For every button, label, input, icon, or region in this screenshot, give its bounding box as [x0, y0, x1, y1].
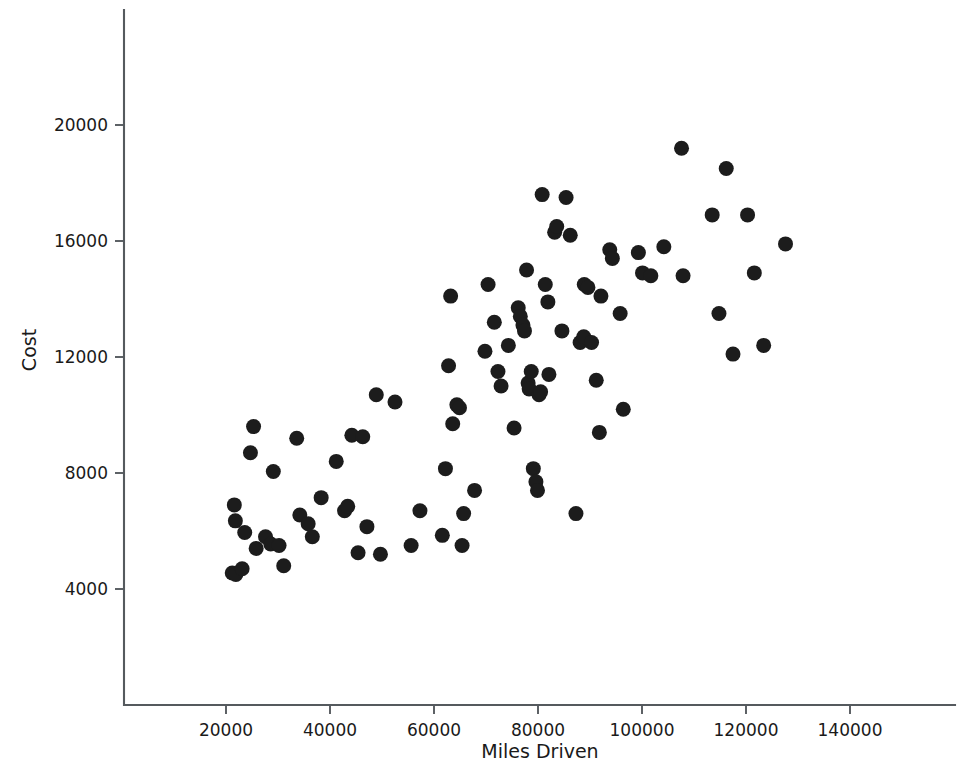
y-tick-label: 12000 — [54, 347, 108, 367]
data-point — [227, 497, 242, 512]
x-tick-label: 120000 — [714, 720, 779, 740]
data-point — [443, 289, 458, 304]
data-point — [487, 315, 502, 330]
data-point — [490, 364, 505, 379]
data-point — [517, 323, 532, 338]
data-point — [249, 541, 264, 556]
data-point — [747, 265, 762, 280]
data-point — [412, 503, 427, 518]
data-point — [568, 506, 583, 521]
data-point — [507, 421, 522, 436]
data-point — [455, 538, 470, 553]
data-point — [314, 490, 329, 505]
x-tick-label: 100000 — [610, 720, 675, 740]
data-point — [373, 547, 388, 562]
data-point — [526, 461, 541, 476]
data-point — [589, 373, 604, 388]
data-point — [477, 344, 492, 359]
x-axis-ticks — [226, 705, 850, 714]
x-tick-label: 20000 — [199, 720, 253, 740]
x-tick-label: 140000 — [818, 720, 883, 740]
data-point — [301, 516, 316, 531]
data-point — [616, 402, 631, 417]
scatter-plot-figure: 40008000120001600020000 2000040000600008… — [0, 0, 976, 784]
data-point — [359, 519, 374, 534]
data-point — [235, 561, 250, 576]
data-point — [519, 263, 534, 278]
data-point — [541, 367, 556, 382]
data-point-series — [225, 141, 793, 582]
data-point — [535, 187, 550, 202]
data-point — [494, 379, 509, 394]
data-point — [593, 289, 608, 304]
data-point — [435, 528, 450, 543]
data-point — [676, 268, 691, 283]
data-point — [705, 207, 720, 222]
data-point — [711, 306, 726, 321]
data-point — [554, 323, 569, 338]
data-point — [501, 338, 516, 353]
data-point — [719, 161, 734, 176]
data-point — [266, 464, 281, 479]
data-point — [580, 280, 595, 295]
x-axis-tick-labels: 20000400006000080000100000120000140000 — [199, 720, 883, 740]
data-point — [674, 141, 689, 156]
data-point — [456, 506, 471, 521]
x-axis-title: Miles Driven — [481, 740, 598, 762]
y-axis-title: Cost — [18, 329, 40, 371]
data-point — [329, 454, 344, 469]
data-point — [778, 236, 793, 251]
y-tick-label: 8000 — [65, 463, 108, 483]
plot-canvas: 40008000120001600020000 2000040000600008… — [0, 0, 976, 784]
data-point — [533, 384, 548, 399]
data-point — [530, 483, 545, 498]
data-point — [643, 268, 658, 283]
data-point — [351, 545, 366, 560]
data-point — [272, 538, 287, 553]
x-tick-label: 40000 — [303, 720, 357, 740]
data-point — [605, 251, 620, 266]
data-point — [305, 529, 320, 544]
data-point — [228, 513, 243, 528]
data-point — [467, 483, 482, 498]
data-point — [404, 538, 419, 553]
data-point — [246, 419, 261, 434]
data-point — [243, 445, 258, 460]
data-point — [726, 347, 741, 362]
data-point — [355, 429, 370, 444]
y-tick-label: 16000 — [54, 231, 108, 251]
data-point — [584, 335, 599, 350]
data-point — [441, 358, 456, 373]
data-point — [438, 461, 453, 476]
x-tick-label: 60000 — [407, 720, 461, 740]
data-point — [540, 294, 555, 309]
data-point — [388, 394, 403, 409]
y-axis-tick-labels: 40008000120001600020000 — [54, 115, 108, 599]
data-point — [756, 338, 771, 353]
data-point — [237, 525, 252, 540]
data-point — [340, 499, 355, 514]
y-tick-label: 20000 — [54, 115, 108, 135]
axis-spines — [124, 10, 955, 705]
data-point — [631, 245, 646, 260]
data-point — [452, 400, 467, 415]
data-point — [289, 431, 304, 446]
y-axis-ticks — [115, 125, 124, 589]
data-point — [538, 277, 553, 292]
data-point — [656, 239, 671, 254]
x-tick-label: 80000 — [511, 720, 565, 740]
data-point — [369, 387, 384, 402]
data-point — [276, 558, 291, 573]
data-point — [563, 228, 578, 243]
data-point — [740, 207, 755, 222]
data-point — [549, 219, 564, 234]
data-point — [559, 190, 574, 205]
data-point — [524, 364, 539, 379]
y-tick-label: 4000 — [65, 579, 108, 599]
data-point — [592, 425, 607, 440]
data-point — [445, 416, 460, 431]
data-point — [613, 306, 628, 321]
data-point — [481, 277, 496, 292]
